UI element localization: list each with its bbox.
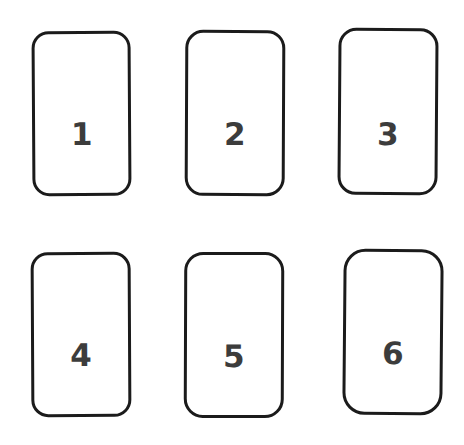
card-label-6: 6 [346,338,440,370]
numbered-card-1[interactable]: 1 [31,31,131,197]
numbered-card-5[interactable]: 5 [184,252,285,418]
card-label-2: 2 [188,119,282,150]
numbered-card-3[interactable]: 3 [337,28,438,196]
numbered-card-2[interactable]: 2 [185,30,286,196]
card-grid-canvas: 1 2 3 4 5 6 [0,0,464,445]
card-label-3: 3 [341,119,435,151]
numbered-card-4[interactable]: 4 [31,252,132,418]
card-label-5: 5 [187,341,281,372]
card-label-1: 1 [35,119,128,151]
numbered-card-6[interactable]: 6 [342,249,443,416]
card-label-4: 4 [34,340,128,371]
